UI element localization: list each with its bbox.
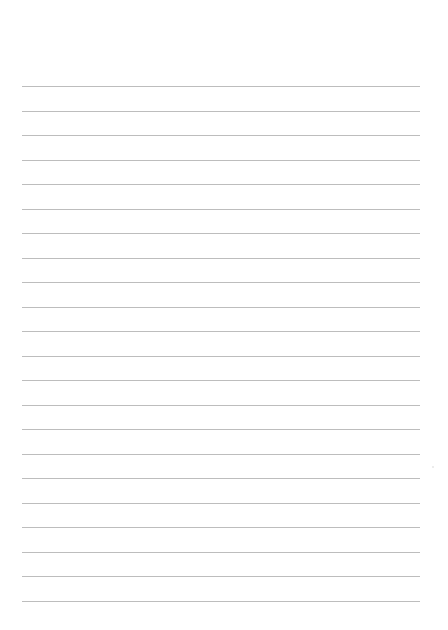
ruled-line [22,576,420,577]
ruled-line [22,111,420,112]
ruled-line [22,209,420,210]
ruled-line [22,356,420,357]
ruled-line [22,282,420,283]
ruled-line [22,429,420,430]
ruled-line [22,331,420,332]
ruled-line [22,160,420,161]
ruled-line [22,380,420,381]
ruled-line [22,184,420,185]
ruled-line [22,601,420,602]
ruled-line [22,135,420,136]
ruled-line [22,307,420,308]
ruled-line [22,527,420,528]
ruled-line [22,454,420,455]
ruled-line [22,503,420,504]
ruled-line [22,405,420,406]
ruled-line [22,258,420,259]
lined-paper-page [0,0,448,630]
paper-speck [432,466,434,468]
ruled-line [22,86,420,87]
ruled-line [22,552,420,553]
ruled-line [22,478,420,479]
ruled-line [22,233,420,234]
